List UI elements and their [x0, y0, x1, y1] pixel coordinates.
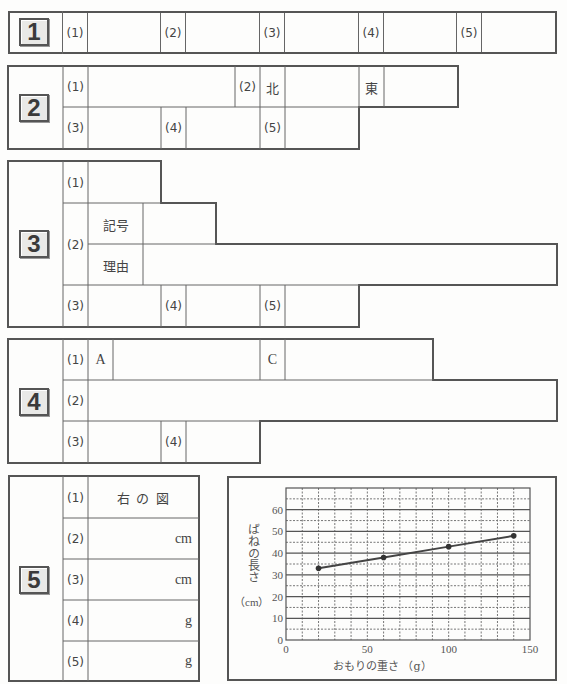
svg-text:100: 100	[440, 643, 457, 655]
svg-text:10: 10	[272, 612, 284, 624]
svg-text:60: 60	[272, 504, 284, 516]
svg-text:20: 20	[272, 591, 284, 603]
chart-ylabel-unit: （cm）	[234, 593, 269, 609]
svg-text:50: 50	[272, 525, 284, 537]
svg-text:30: 30	[272, 569, 284, 581]
chart-xlabel: おもりの重さ （g）	[333, 657, 432, 673]
svg-text:0: 0	[283, 643, 289, 655]
chart-ylabel: ばねの長さ	[244, 523, 258, 583]
svg-text:40: 40	[272, 547, 284, 559]
spring-length-chart: 0102030405060050100150	[0, 0, 567, 684]
svg-text:150: 150	[522, 643, 539, 655]
svg-text:50: 50	[362, 643, 374, 655]
